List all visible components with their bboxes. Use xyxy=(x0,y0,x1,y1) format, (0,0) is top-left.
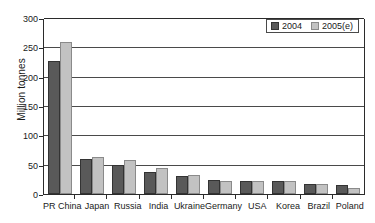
bar-2005e-germany xyxy=(220,181,232,194)
x-axis-labels: PR ChinaJapanRussiaIndiaUkraineGermanyUS… xyxy=(43,201,365,211)
bar-group xyxy=(140,19,172,194)
bar-2004-ukraine xyxy=(176,176,188,194)
y-axis-tick-mark xyxy=(39,166,43,167)
y-axis-tick-label: 150 xyxy=(10,102,38,112)
y-axis-tick-label: 200 xyxy=(10,73,38,83)
bar-group xyxy=(108,19,140,194)
y-axis-tick-label: 300 xyxy=(10,14,38,24)
x-axis-ticks xyxy=(43,195,365,200)
bar-2005e-pr-china xyxy=(60,42,72,194)
x-axis-tick-mark xyxy=(140,195,172,200)
bar-group xyxy=(268,19,300,194)
bar-group xyxy=(236,19,268,194)
y-axis-tick-label: 100 xyxy=(10,131,38,141)
bar-group xyxy=(172,19,204,194)
bars-layer xyxy=(44,19,364,194)
x-axis-label-germany: Germany xyxy=(205,201,242,211)
x-axis-tick-mark xyxy=(268,195,300,200)
legend-label-2004: 2004 xyxy=(282,22,302,31)
x-axis-label-japan: Japan xyxy=(82,201,113,211)
y-axis-tick-label: 50 xyxy=(10,161,38,171)
x-axis-label-pr-china: PR China xyxy=(43,201,82,211)
bar-2004-japan xyxy=(80,159,92,194)
x-axis-label-usa: USA xyxy=(242,201,273,211)
x-axis-tick-mark xyxy=(333,195,365,200)
legend-item-2004: 2004 xyxy=(271,22,302,31)
bar-group xyxy=(44,19,76,194)
chart-legend: 2004 2005(e) xyxy=(266,19,359,33)
y-axis-tick-mark xyxy=(39,136,43,137)
x-axis-tick-mark xyxy=(301,195,333,200)
x-axis-label-poland: Poland xyxy=(334,201,365,211)
legend-swatch-icon-2004 xyxy=(271,22,279,30)
bar-group xyxy=(300,19,332,194)
y-axis-tick-mark xyxy=(39,107,43,108)
y-axis-tick-label: 0 xyxy=(10,190,38,200)
x-axis-tick-mark xyxy=(43,195,75,200)
x-axis-tick-mark xyxy=(236,195,268,200)
legend-swatch-icon-2005 xyxy=(311,22,319,30)
bar-2005e-japan xyxy=(92,157,104,194)
bar-2004-korea xyxy=(272,181,284,194)
bar-group xyxy=(204,19,236,194)
x-axis-label-russia: Russia xyxy=(112,201,143,211)
bar-group xyxy=(332,19,364,194)
bar-2004-usa xyxy=(240,181,252,194)
bar-2004-pr-china xyxy=(48,61,60,194)
x-axis-label-india: India xyxy=(143,201,174,211)
x-axis-tick-mark xyxy=(172,195,204,200)
x-axis-tick-mark xyxy=(107,195,139,200)
bar-2005e-korea xyxy=(284,181,296,194)
y-axis-tick-label: 250 xyxy=(10,43,38,53)
legend-item-2005: 2005(e) xyxy=(311,22,353,31)
plot-area xyxy=(43,19,365,195)
legend-label-2005: 2005(e) xyxy=(322,22,353,31)
x-axis-label-korea: Korea xyxy=(273,201,304,211)
x-axis-label-brazil: Brazil xyxy=(303,201,334,211)
bar-2005e-india xyxy=(156,168,168,194)
bar-2004-poland xyxy=(336,185,348,194)
y-axis-tick-mark xyxy=(39,78,43,79)
bar-chart: Million tonnes 300250200150100500 PR Chi… xyxy=(0,0,375,223)
bar-2004-brazil xyxy=(304,184,316,194)
bar-2005e-usa xyxy=(252,181,264,194)
bar-2004-india xyxy=(144,172,156,194)
bar-2005e-russia xyxy=(124,160,136,194)
x-axis-tick-mark xyxy=(75,195,107,200)
y-axis-tick-mark xyxy=(39,48,43,49)
y-axis-tick-mark xyxy=(39,19,43,20)
bar-group xyxy=(76,19,108,194)
x-axis-tick-mark xyxy=(204,195,236,200)
bar-2004-russia xyxy=(112,165,124,194)
bar-2005e-brazil xyxy=(316,184,328,194)
bar-2004-germany xyxy=(208,180,220,194)
x-axis-label-ukraine: Ukraine xyxy=(174,201,205,211)
bar-2005e-poland xyxy=(348,188,360,194)
bar-2005e-ukraine xyxy=(188,175,200,194)
